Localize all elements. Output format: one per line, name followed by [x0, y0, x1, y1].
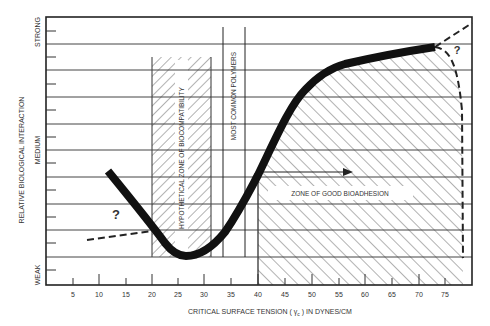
tick-label: 15 — [122, 291, 130, 298]
biocompatibility-zone-label: HYPOTHETICAL ZONE OF BIOCOMPATIBILITY — [178, 86, 185, 228]
y-label-medium: MEDIUM — [34, 136, 41, 165]
y-label-strong: STRONG — [34, 17, 41, 47]
bioadhesion-chart: 5 10 15 20 25 30 35 40 45 50 55 60 65 70… — [0, 0, 490, 326]
tick-label: 10 — [95, 291, 103, 298]
bioadhesion-zone — [258, 40, 468, 285]
tick-label: 55 — [335, 291, 343, 298]
x-tick-labels: 5 10 15 20 25 30 35 40 45 50 55 60 65 70… — [71, 291, 449, 298]
tick-label: 60 — [361, 291, 369, 298]
tick-label: 70 — [415, 291, 423, 298]
tick-label: 25 — [174, 291, 182, 298]
polymers-label: MOST COMMON POLYMERS — [230, 51, 237, 140]
x-axis-title: CRITICAL SURFACE TENSION ( γc ) IN DYNES… — [188, 308, 352, 317]
tick-label: 75 — [441, 291, 449, 298]
tick-label: 35 — [227, 291, 235, 298]
bioadhesion-zone-label: ZONE OF GOOD BIOADHESION — [291, 190, 389, 197]
tick-label: 20 — [148, 291, 156, 298]
tick-label: 40 — [254, 291, 262, 298]
question-mark-right: ? — [454, 44, 461, 56]
question-mark-left: ? — [112, 207, 120, 222]
y-label-weak: WEAK — [34, 264, 41, 285]
tick-label: 30 — [200, 291, 208, 298]
tick-label: 45 — [281, 291, 289, 298]
tick-label: 65 — [388, 291, 396, 298]
y-axis-title: RELATIVE BIOLOGICAL INTERACTION — [18, 97, 25, 224]
tick-label: 50 — [308, 291, 316, 298]
tick-label: 5 — [71, 291, 75, 298]
